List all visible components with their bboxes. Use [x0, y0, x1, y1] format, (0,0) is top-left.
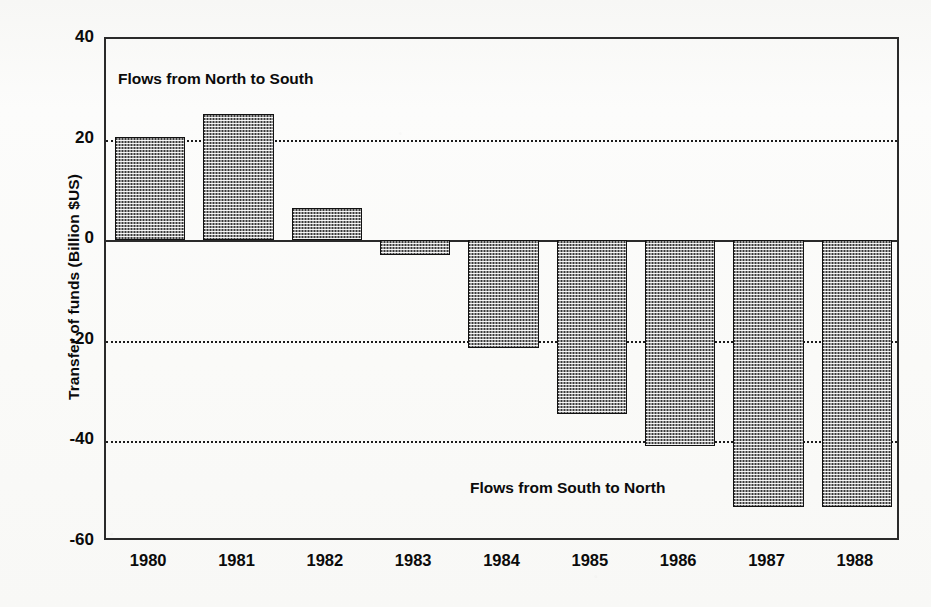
- bar-1988: [822, 240, 893, 507]
- x-tick-label-1981: 1981: [218, 551, 255, 570]
- y-tick-label-40: 40: [32, 27, 94, 47]
- x-tick-label-1985: 1985: [571, 551, 608, 570]
- bar-1981: [203, 114, 274, 240]
- annotation-south-to-north: Flows from South to North: [470, 479, 665, 497]
- bar-1983: [380, 240, 451, 255]
- bar-1985: [557, 240, 628, 414]
- x-tick-label-1983: 1983: [395, 551, 432, 570]
- y-tick-label-20: 20: [32, 128, 94, 148]
- y-tick-label-0: 0: [32, 228, 94, 248]
- bar-1984: [468, 240, 539, 348]
- bar-1980: [115, 137, 186, 240]
- chart-page: Transfer of funds (Billion $US) 40200-20…: [0, 0, 931, 607]
- y-tick-label--60: -60: [32, 530, 94, 550]
- y-tick-label--40: -40: [32, 429, 94, 449]
- x-tick-label-1980: 1980: [130, 551, 167, 570]
- y-axis-tick-labels: 40200-20-40-60: [22, 0, 94, 607]
- plot-area: [104, 37, 899, 540]
- x-tick-label-1986: 1986: [660, 551, 697, 570]
- x-tick-label-1988: 1988: [836, 551, 873, 570]
- x-tick-label-1987: 1987: [748, 551, 785, 570]
- y-tick-label--20: -20: [32, 329, 94, 349]
- annotation-north-to-south: Flows from North to South: [118, 70, 313, 88]
- bar-1986: [645, 240, 716, 446]
- x-tick-label-1982: 1982: [306, 551, 343, 570]
- bar-1982: [292, 208, 363, 241]
- bar-1987: [733, 240, 804, 507]
- x-tick-label-1984: 1984: [483, 551, 520, 570]
- plot-inner: [106, 39, 897, 538]
